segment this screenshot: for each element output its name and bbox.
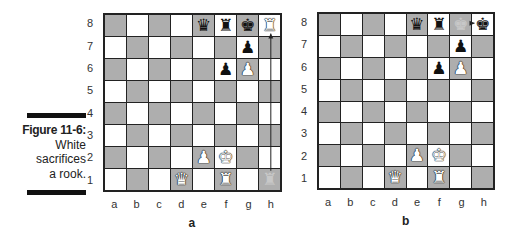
square-b6 <box>127 59 148 80</box>
square-c7 <box>149 37 170 58</box>
square-f3 <box>215 125 236 146</box>
square-h8: ♜ <box>259 15 280 36</box>
square-g8: ♚ <box>237 15 258 36</box>
square-e4 <box>193 103 214 124</box>
black-pawn-icon: ♟ <box>218 61 233 78</box>
black-pawn-icon: ♟ <box>240 39 255 56</box>
square-a5 <box>319 80 340 101</box>
square-f5 <box>428 80 449 101</box>
caption-bar-bottom <box>27 190 86 195</box>
square-g3 <box>237 125 258 146</box>
file-label: f <box>221 198 231 210</box>
square-b4 <box>127 103 148 124</box>
square-g6: ♟ <box>450 58 471 79</box>
square-f8: ♜ <box>428 14 449 35</box>
white-rook-icon: ♜ <box>218 171 233 188</box>
square-f4 <box>215 103 236 124</box>
square-b6 <box>341 58 362 79</box>
square-c8 <box>149 15 170 36</box>
square-e3 <box>407 123 428 144</box>
square-b4 <box>341 102 362 123</box>
square-e8: ♛ <box>407 14 428 35</box>
file-label: h <box>479 196 489 208</box>
square-f7 <box>215 37 236 58</box>
file-label: b <box>345 196 355 208</box>
square-d1: ♛ <box>385 167 406 188</box>
square-a1 <box>319 167 340 188</box>
square-c5 <box>363 80 384 101</box>
square-d6 <box>171 59 192 80</box>
file-label: h <box>266 198 276 210</box>
rank-label: 7 <box>85 40 95 52</box>
square-d2 <box>171 147 192 168</box>
square-b7 <box>341 36 362 57</box>
caption-line: White <box>18 138 86 153</box>
black-queen-icon: ♛ <box>196 17 211 34</box>
rank-label: 3 <box>299 127 309 139</box>
square-c1 <box>363 167 384 188</box>
square-b2 <box>127 147 148 168</box>
white-rook-icon: ♜ <box>431 169 446 186</box>
square-f6: ♟ <box>215 59 236 80</box>
white-king-icon: ♚ <box>431 147 446 164</box>
square-b5 <box>341 80 362 101</box>
rank-label: 4 <box>85 107 95 119</box>
square-g6: ♟ <box>237 59 258 80</box>
square-d7 <box>385 36 406 57</box>
board-grid: ♛♜♚♜♟♟♟♟♚♛♜♜ <box>103 13 282 192</box>
square-d1: ♛ <box>171 169 192 190</box>
square-e2: ♟ <box>407 145 428 166</box>
square-d4 <box>385 102 406 123</box>
file-label: g <box>243 198 253 210</box>
square-b1 <box>127 169 148 190</box>
square-h1: ♜ <box>259 169 280 190</box>
square-f8: ♜ <box>215 15 236 36</box>
square-h2 <box>472 145 493 166</box>
square-h6 <box>259 59 280 80</box>
square-e6 <box>193 59 214 80</box>
square-b8 <box>127 15 148 36</box>
file-label: c <box>368 196 378 208</box>
rank-label: 5 <box>299 83 309 95</box>
square-f4 <box>428 102 449 123</box>
square-e1 <box>193 169 214 190</box>
file-label: b <box>132 198 142 210</box>
file-label: a <box>109 198 119 210</box>
square-b3 <box>127 125 148 146</box>
rank-label: 4 <box>299 105 309 117</box>
rank-label: 8 <box>299 16 309 28</box>
square-g1 <box>450 167 471 188</box>
square-a8 <box>319 14 340 35</box>
square-g5 <box>450 80 471 101</box>
square-h6 <box>472 58 493 79</box>
square-a6 <box>105 59 126 80</box>
file-label: a <box>323 196 333 208</box>
file-label: g <box>457 196 467 208</box>
square-g8: ♚ <box>450 14 471 35</box>
square-f2: ♚ <box>215 147 236 168</box>
square-a1 <box>105 169 126 190</box>
file-label: e <box>199 198 209 210</box>
black-rook-icon: ♜ <box>431 16 446 33</box>
square-g4 <box>237 103 258 124</box>
rank-label: 6 <box>85 62 95 74</box>
square-b8 <box>341 14 362 35</box>
square-e3 <box>193 125 214 146</box>
square-f6: ♟ <box>428 58 449 79</box>
black-king-icon: ♚ <box>240 17 255 34</box>
square-f3 <box>428 123 449 144</box>
rank-label: 2 <box>299 150 309 162</box>
square-h2 <box>259 147 280 168</box>
square-b5 <box>127 81 148 102</box>
square-c1 <box>149 169 170 190</box>
white-queen-icon: ♛ <box>387 169 402 186</box>
white-pawn-icon: ♟ <box>409 147 424 164</box>
rank-label: 1 <box>85 174 95 186</box>
caption-line: a rook. <box>18 167 86 182</box>
file-label: f <box>434 196 444 208</box>
rank-label: 2 <box>85 151 95 163</box>
rank-label: 1 <box>299 172 309 184</box>
square-h3 <box>472 123 493 144</box>
square-a4 <box>105 103 126 124</box>
square-b7 <box>127 37 148 58</box>
